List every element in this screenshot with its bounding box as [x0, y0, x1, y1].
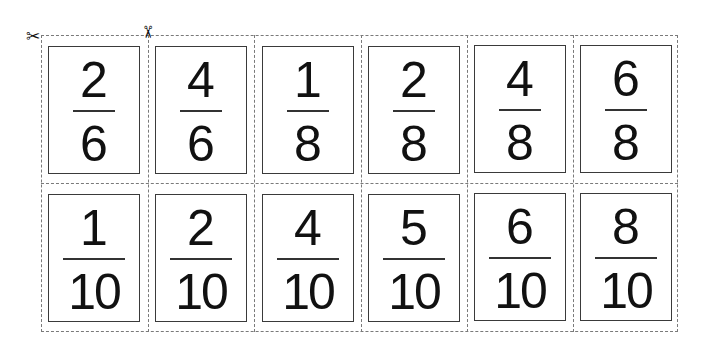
fraction-card: 4 6	[155, 46, 247, 174]
numerator: 6	[581, 54, 671, 104]
denominator: 8	[263, 119, 353, 169]
numerator: 6	[475, 202, 565, 252]
numerator: 1	[49, 203, 139, 253]
fraction-card: 1 10	[48, 194, 140, 322]
fraction-card: 2 8	[368, 46, 460, 174]
fraction-bar	[383, 258, 445, 260]
denominator: 8	[581, 118, 671, 168]
numerator: 5	[369, 203, 459, 253]
fraction-bar	[73, 110, 115, 112]
denominator: 6	[49, 119, 139, 169]
fraction-card: 2 6	[48, 46, 140, 174]
numerator: 1	[263, 55, 353, 105]
fraction-card: 1 8	[262, 46, 354, 174]
scissors-icon: ✂	[26, 28, 40, 45]
fraction-bar	[605, 109, 647, 111]
numerator: 2	[369, 55, 459, 105]
fraction-bar	[489, 257, 551, 259]
fraction-bar	[499, 109, 541, 111]
denominator: 10	[581, 266, 671, 316]
fraction-card: 6 8	[580, 45, 672, 173]
numerator: 2	[49, 55, 139, 105]
fraction-card: 4 10	[262, 194, 354, 322]
numerator: 4	[475, 54, 565, 104]
fraction-card: 5 10	[368, 194, 460, 322]
fraction-card: 6 10	[474, 193, 566, 321]
denominator: 8	[475, 118, 565, 168]
fraction-bar	[393, 110, 435, 112]
fraction-card: 8 10	[580, 193, 672, 321]
denominator: 6	[156, 119, 246, 169]
denominator: 10	[49, 267, 139, 317]
fraction-bar	[180, 110, 222, 112]
fraction-bar	[63, 258, 125, 260]
denominator: 10	[369, 267, 459, 317]
fraction-bar	[595, 257, 657, 259]
numerator: 4	[156, 55, 246, 105]
scissors-icon: ✂	[139, 25, 156, 39]
numerator: 8	[581, 202, 671, 252]
numerator: 2	[156, 203, 246, 253]
numerator: 4	[263, 203, 353, 253]
cut-line-horizontal	[41, 183, 678, 184]
denominator: 10	[475, 266, 565, 316]
denominator: 10	[156, 267, 246, 317]
fraction-card: 4 8	[474, 45, 566, 173]
denominator: 8	[369, 119, 459, 169]
fraction-bar	[287, 110, 329, 112]
fraction-bar	[170, 258, 232, 260]
denominator: 10	[263, 267, 353, 317]
fraction-bar	[277, 258, 339, 260]
fraction-card: 2 10	[155, 194, 247, 322]
